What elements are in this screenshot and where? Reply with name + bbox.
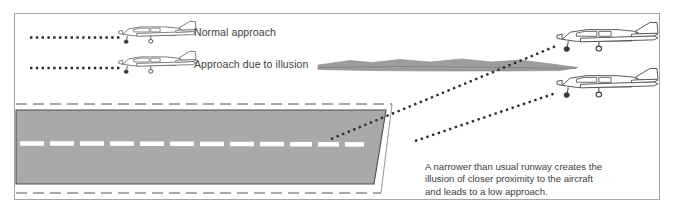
left-illusion-approach-aircraft xyxy=(119,51,196,73)
illusion-approach-label: Approach due to illusion xyxy=(194,58,308,70)
normal-approach-label: Normal approach xyxy=(194,26,276,38)
runway-surface xyxy=(16,110,386,184)
right-lower-aircraft xyxy=(557,69,658,98)
terrain-silhouette xyxy=(318,59,578,71)
left-normal-approach-aircraft xyxy=(119,21,196,43)
right-upper-aircraft xyxy=(557,23,658,52)
caption-line-1: A narrower than usual runway creates the xyxy=(425,161,643,173)
caption-line-3: and leads to a low approach. xyxy=(425,186,643,198)
lower-glide-path-short xyxy=(415,93,556,141)
upper-glide-path-to-threshold xyxy=(331,46,556,139)
runway-illusion-diagram: Normal approach Approach due to illusion… xyxy=(0,0,675,214)
explanatory-caption: A narrower than usual runway creates the… xyxy=(425,161,643,198)
caption-line-2: illusion of closer proximity to the airc… xyxy=(425,173,643,185)
